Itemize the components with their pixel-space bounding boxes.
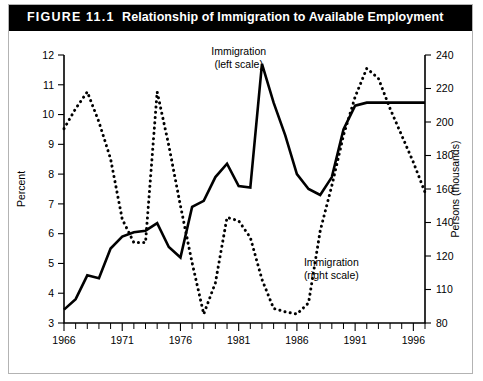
page-title: Relationship of Immigration to Available…: [122, 10, 444, 24]
x-axis-tick-label: 1981: [227, 334, 251, 346]
series-annotation-line2: (right scale): [304, 269, 359, 281]
x-axis-ticks-group: 1966197119761981198619911996: [52, 323, 425, 346]
chart-plot-area: 3456789101112 80110120140160180200220240…: [9, 31, 472, 373]
left-axis-tick-label: 11: [43, 79, 54, 91]
left-axis-tick-label: 7: [48, 198, 54, 210]
chart-annotations-group: Immigration(left scale)Immigration(right…: [211, 45, 359, 281]
left-axis-title: Percent: [15, 171, 27, 207]
series-line-right-scale: [64, 68, 425, 314]
series-line-left-scale: [64, 64, 425, 310]
series-annotation-line2: (left scale): [214, 58, 262, 70]
left-axis-ticks-group: 3456789101112: [42, 49, 64, 329]
left-axis-tick-label: 9: [48, 138, 54, 150]
right-axis-tick-label: 240: [436, 49, 454, 61]
right-axis-tick-label: 80: [436, 317, 448, 329]
left-axis-tick-label: 8: [48, 168, 54, 180]
x-axis-tick-label: 1976: [169, 334, 193, 346]
x-axis-tick-label: 1996: [402, 334, 426, 346]
left-axis-tick-label: 6: [48, 227, 54, 239]
axis-spines-group: [64, 55, 425, 323]
axis-frame: [64, 55, 425, 323]
x-axis-tick-label: 1991: [343, 334, 367, 346]
left-axis-tick-label: 5: [48, 257, 54, 269]
figure-panel: FIGURE 11.1 Relationship of Immigration …: [8, 4, 473, 374]
series-annotation-line1: Immigration: [211, 45, 266, 57]
left-axis-tick-label: 4: [48, 287, 54, 299]
x-axis-tick-label: 1966: [52, 334, 76, 346]
x-axis-tick-label: 1971: [111, 334, 135, 346]
right-axis-title: Persons (thousands): [449, 141, 461, 238]
right-axis-tick-label: 200: [436, 116, 454, 128]
figure-number: FIGURE 11.1: [27, 10, 115, 24]
series-annotation-line1: Immigration: [304, 256, 359, 268]
immigration-employment-line-chart: 3456789101112 80110120140160180200220240…: [9, 31, 472, 373]
axis-titles-group: PercentPersons (thousands): [15, 141, 461, 238]
left-axis-tick-label: 3: [48, 317, 54, 329]
data-series-group: [64, 64, 425, 314]
right-axis-tick-label: 120: [436, 250, 454, 262]
right-axis-tick-label: 110: [436, 283, 453, 295]
x-axis-tick-label: 1986: [285, 334, 309, 346]
right-axis-tick-label: 220: [436, 82, 454, 94]
left-axis-tick-label: 10: [42, 108, 54, 120]
left-axis-tick-label: 12: [42, 49, 54, 61]
figure-title-bar: FIGURE 11.1 Relationship of Immigration …: [9, 5, 472, 31]
